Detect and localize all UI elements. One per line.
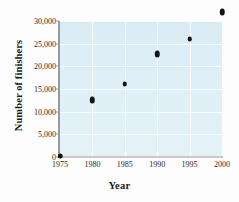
plot-area: [60, 21, 222, 157]
y-axis-tick-labels: 05,00010,00015,00020,00025,00030,000: [0, 0, 56, 202]
gridline-vertical: [125, 21, 126, 157]
data-point: [220, 8, 225, 15]
data-point: [155, 51, 160, 58]
y-axis-tick-label: 5,000: [2, 130, 56, 139]
gridline-vertical: [222, 21, 223, 157]
x-axis-title: Year: [0, 180, 239, 191]
gridline-horizontal: [60, 112, 222, 113]
y-axis-title: Number of finishers: [13, 16, 24, 156]
y-axis-tick-label: 15,000: [2, 85, 56, 94]
y-axis-tick-mark: [55, 111, 59, 112]
y-axis-tick-label: 30,000: [2, 17, 56, 26]
x-axis-spine: [58, 156, 223, 158]
gridline-horizontal: [60, 21, 222, 22]
y-axis-tick-label: 20,000: [2, 62, 56, 71]
gridline-horizontal: [60, 134, 222, 135]
scatter-chart-figure: 05,00010,00015,00020,00025,00030,000 Num…: [0, 0, 239, 202]
y-axis-tick-label: 25,000: [2, 39, 56, 48]
data-point: [90, 97, 95, 104]
y-axis-tick-mark: [55, 43, 59, 44]
gridline-horizontal: [60, 66, 222, 67]
y-axis-spine: [58, 21, 60, 158]
gridline-horizontal: [60, 89, 222, 90]
y-axis-tick-mark: [55, 21, 59, 22]
x-axis-tick-label: 2000: [202, 160, 239, 169]
data-point: [123, 82, 128, 87]
gridline-horizontal: [60, 44, 222, 45]
y-axis-tick-mark: [55, 89, 59, 90]
y-axis-tick-mark: [55, 134, 59, 135]
y-axis-tick-label: 10,000: [2, 107, 56, 116]
y-axis-tick-mark: [55, 66, 59, 67]
data-point: [58, 153, 63, 158]
data-point: [187, 37, 192, 42]
gridline-vertical: [157, 21, 158, 157]
gridline-vertical: [92, 21, 93, 157]
